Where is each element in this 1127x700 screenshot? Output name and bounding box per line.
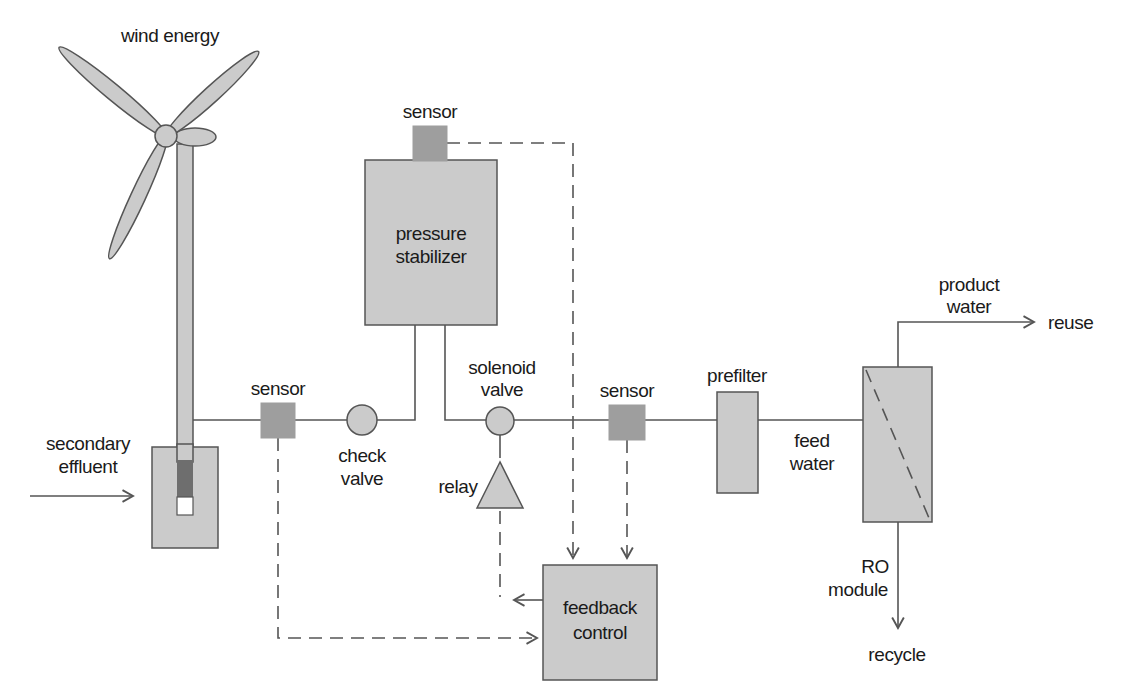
pressure-stabilizer-label-1: pressure xyxy=(396,223,467,244)
diagram-canvas: wind energy secondary effluent sensor ch… xyxy=(0,0,1127,700)
solenoid-valve-label-2: valve xyxy=(481,379,523,400)
feed-sensor xyxy=(609,405,645,440)
check-valve xyxy=(347,405,377,435)
turbine-blade-upper-right xyxy=(160,46,264,143)
submerged-pump xyxy=(177,460,193,497)
pipe-well-to-stabilizer xyxy=(193,325,415,420)
check-valve-label-2: valve xyxy=(341,468,383,489)
turbine-tower xyxy=(177,144,193,460)
ro-module-box xyxy=(863,367,932,522)
pump-shaft xyxy=(177,444,193,462)
turbine-hub xyxy=(155,125,177,147)
turbine-blade-lower xyxy=(103,132,174,262)
well-sensor xyxy=(261,403,295,438)
feed-water-label-2: water xyxy=(789,453,836,474)
solenoid-valve xyxy=(486,407,514,435)
stabilizer-sensor xyxy=(413,126,447,161)
reuse-label: reuse xyxy=(1048,312,1094,333)
product-water-label-2: water xyxy=(946,296,993,317)
feedback-control-label-1: feedback xyxy=(563,597,638,618)
relay-label: relay xyxy=(438,476,478,497)
check-valve-label-1: check xyxy=(338,445,387,466)
recycle-label: recycle xyxy=(868,644,925,665)
pressure-stabilizer-label-2: stabilizer xyxy=(396,246,468,267)
process-diagram: wind energy secondary effluent sensor ch… xyxy=(0,0,1127,700)
secondary-effluent-label-1: secondary xyxy=(46,433,131,454)
wind-energy-label: wind energy xyxy=(120,25,220,46)
secondary-effluent-label-2: effluent xyxy=(59,456,119,477)
ro-module-label-1: RO xyxy=(861,556,889,577)
product-water-label-1: product xyxy=(939,274,1001,295)
well-sensor-label: sensor xyxy=(251,378,307,399)
prefilter-box xyxy=(717,392,758,493)
product-water-arrow xyxy=(898,322,1034,367)
relay-triangle xyxy=(477,462,523,508)
solenoid-valve-label-1: solenoid xyxy=(468,357,536,378)
feed-sensor-label: sensor xyxy=(600,380,656,401)
pump-intake xyxy=(177,497,193,515)
feed-water-label-1: feed xyxy=(794,430,829,451)
turbine-blade-upper-left xyxy=(54,41,172,143)
stabilizer-sensor-label: sensor xyxy=(403,101,459,122)
feedback-control-label-2: control xyxy=(573,622,627,643)
ro-module-label-2: module xyxy=(828,579,888,600)
prefilter-label: prefilter xyxy=(707,365,768,386)
